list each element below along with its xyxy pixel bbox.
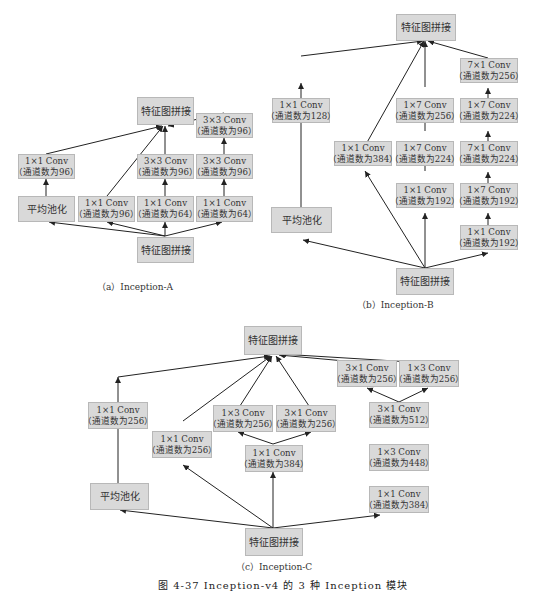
c-concat-bottom: 特征图拼接 bbox=[245, 528, 303, 556]
b-b2-mid-ch: （通道数为224） bbox=[390, 154, 460, 165]
c-b1-ch: （通道数为256） bbox=[147, 445, 217, 456]
c-b3-left-ch: （通道数为256） bbox=[332, 374, 402, 385]
a-pool-conv-op: 1×1 Conv bbox=[25, 156, 68, 167]
b-b3-4-op: 1×7 Conv bbox=[467, 185, 510, 196]
b-b1-op: 1×1 Conv bbox=[341, 143, 384, 154]
c-b3-mid-op: 3×1 Conv bbox=[377, 404, 420, 415]
b-b3-3: 7×1 Conv （通道数为224） bbox=[460, 141, 518, 166]
a-b2-bot-op: 1×1 Conv bbox=[144, 198, 187, 209]
c-pool-conv-op: 1×1 Conv bbox=[96, 405, 139, 416]
b-pool: 平均池化 bbox=[271, 207, 332, 233]
a-b3-top-op: 3×3 Conv bbox=[203, 115, 246, 126]
b-pool-conv: 1×1 Conv （通道数为128） bbox=[272, 98, 330, 123]
b-b2-bot: 1×1 Conv （通道数为192） bbox=[396, 183, 454, 208]
c-concat-top: 特征图拼接 bbox=[244, 326, 302, 355]
c-caption: （c）Inception-C bbox=[236, 560, 312, 573]
b-b2-mid-op: 1×7 Conv bbox=[403, 143, 446, 154]
c-b2-right-ch: （通道数为256） bbox=[271, 419, 341, 430]
c-b2-bot-op: 1×1 Conv bbox=[252, 448, 295, 459]
c-pool: 平均池化 bbox=[90, 483, 149, 510]
b-b3-5-ch: （通道数为192） bbox=[454, 238, 524, 249]
b-concat-top: 特征图拼接 bbox=[396, 14, 456, 41]
a-caption: （a）Inception-A bbox=[97, 280, 173, 293]
b-b2-top-ch: （通道数为256） bbox=[390, 111, 460, 122]
c-b2-bot-ch: （通道数为384） bbox=[239, 459, 309, 470]
a-b3-bot-ch: （通道数为64） bbox=[192, 209, 257, 220]
c-b1-op: 1×1 Conv bbox=[160, 434, 203, 445]
b-b3-5: 1×1 Conv （通道数为192） bbox=[460, 225, 518, 250]
a-b2-bot: 1×1 Conv （通道数为64） bbox=[137, 196, 194, 222]
c-b3-bot-op: 1×1 Conv bbox=[377, 489, 420, 500]
b-pool-conv-ch: （通道数为128） bbox=[266, 111, 336, 122]
c-pool-conv-ch: （通道数为256） bbox=[83, 416, 153, 427]
c-b2-right: 3×1 Conv （通道数为256） bbox=[276, 405, 336, 432]
a-pool: 平均池化 bbox=[18, 196, 75, 222]
a-b2-bot-ch: （通道数为64） bbox=[133, 209, 198, 220]
a-concat-top: 特征图拼接 bbox=[137, 97, 194, 125]
c-b2-left-ch: （通道数为256） bbox=[208, 419, 278, 430]
c-b1: 1×1 Conv （通道数为256） bbox=[152, 431, 212, 458]
c-b3-mid-ch: （通道数为512） bbox=[364, 415, 434, 426]
c-b3-left: 3×1 Conv （通道数为256） bbox=[337, 360, 397, 387]
c-b3-right-ch: （通道数为256） bbox=[394, 374, 464, 385]
b-caption: （b）Inception-B bbox=[357, 298, 434, 311]
c-b2-bot: 1×1 Conv （通道数为384） bbox=[245, 445, 303, 472]
c-b3-mid2-op: 1×3 Conv bbox=[377, 447, 420, 458]
b-b2-bot-ch: （通道数为192） bbox=[390, 196, 460, 207]
a-b3-mid-op: 3×3 Conv bbox=[203, 156, 246, 167]
c-b2-right-op: 3×1 Conv bbox=[284, 408, 327, 419]
a-b1-ch: （通道数为96） bbox=[74, 209, 139, 220]
a-b1: 1×1 Conv （通道数为96） bbox=[78, 196, 135, 222]
a-b1-op: 1×1 Conv bbox=[85, 198, 128, 209]
b-b3-2: 1×7 Conv （通道数为224） bbox=[460, 98, 518, 123]
b-b3-4-ch: （通道数为192） bbox=[454, 196, 524, 207]
b-b3-2-ch: （通道数为224） bbox=[454, 111, 524, 122]
a-b2-top-op: 3×3 Conv bbox=[144, 156, 187, 167]
b-b3-5-op: 1×1 Conv bbox=[467, 227, 510, 238]
b-b3-2-op: 1×7 Conv bbox=[467, 100, 510, 111]
figure-caption: 图 4-37 Inception-v4 的 3 种 Inception 模块 bbox=[158, 577, 408, 592]
c-b3-right: 1×3 Conv （通道数为256） bbox=[399, 360, 459, 387]
b-b2-mid: 1×7 Conv （通道数为224） bbox=[396, 141, 454, 166]
c-b3-mid2-ch: （通道数为448） bbox=[364, 458, 434, 469]
a-b3-bot-op: 1×1 Conv bbox=[203, 198, 246, 209]
c-b3-bot-ch: （通道数为384） bbox=[364, 500, 434, 511]
a-b2-top-ch: （通道数为96） bbox=[133, 167, 198, 178]
c-b2-left-op: 1×3 Conv bbox=[221, 408, 264, 419]
b-b3-3-ch: （通道数为224） bbox=[454, 154, 524, 165]
b-b2-top-op: 1×7 Conv bbox=[403, 100, 446, 111]
b-pool-conv-op: 1×1 Conv bbox=[279, 100, 322, 111]
b-b1: 1×1 Conv （通道数为384） bbox=[334, 141, 392, 166]
a-b2-top: 3×3 Conv （通道数为96） bbox=[137, 154, 194, 179]
a-b3-top: 3×3 Conv （通道数为96） bbox=[196, 113, 253, 138]
b-concat-bottom: 特征图拼接 bbox=[396, 268, 454, 295]
a-b3-mid-ch: （通道数为96） bbox=[192, 167, 257, 178]
b-b3-1-ch: （通道数为256） bbox=[454, 71, 524, 82]
b-b3-1: 7×1 Conv （通道数为256） bbox=[460, 58, 518, 83]
c-b3-right-op: 1×3 Conv bbox=[407, 363, 450, 374]
b-b1-ch: （通道数为384） bbox=[328, 154, 398, 165]
c-b3-left-op: 3×1 Conv bbox=[345, 363, 388, 374]
a-b3-bot: 1×1 Conv （通道数为64） bbox=[196, 196, 253, 222]
b-b3-3-op: 7×1 Conv bbox=[467, 143, 510, 154]
a-b3-mid: 3×3 Conv （通道数为96） bbox=[196, 154, 253, 179]
b-b3-1-op: 7×1 Conv bbox=[467, 60, 510, 71]
c-b3-mid2: 1×3 Conv （通道数为448） bbox=[369, 444, 429, 471]
a-concat-bottom: 特征图拼接 bbox=[137, 237, 194, 263]
b-b3-4: 1×7 Conv （通道数为192） bbox=[460, 183, 518, 208]
c-b3-mid: 3×1 Conv （通道数为512） bbox=[369, 402, 429, 428]
b-b2-top: 1×7 Conv （通道数为256） bbox=[396, 98, 454, 123]
a-b3-top-ch: （通道数为96） bbox=[192, 126, 257, 137]
b-b2-bot-op: 1×1 Conv bbox=[403, 185, 446, 196]
a-pool-conv-ch: （通道数为96） bbox=[14, 167, 79, 178]
a-pool-conv: 1×1 Conv （通道数为96） bbox=[18, 154, 75, 179]
c-b3-bot: 1×1 Conv （通道数为384） bbox=[369, 486, 429, 513]
c-pool-conv: 1×1 Conv （通道数为256） bbox=[88, 402, 148, 429]
c-b2-left: 1×3 Conv （通道数为256） bbox=[213, 405, 273, 432]
